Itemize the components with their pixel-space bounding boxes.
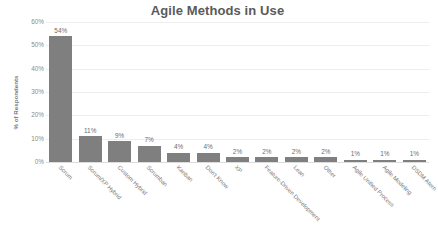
bar-slot: 4%	[193, 22, 222, 162]
bar-slot: 11%	[75, 22, 104, 162]
y-tick-label: 40%	[20, 65, 44, 71]
x-axis-label: Scrum	[57, 165, 73, 181]
x-label-slot: Scrumban	[134, 163, 163, 246]
x-axis-label: Lean	[292, 165, 305, 178]
bar[interactable]	[373, 160, 396, 162]
x-label-slot: Custom Hybrid	[105, 163, 134, 246]
y-tick-label: 0%	[20, 159, 44, 165]
bar-value-label: 2%	[311, 149, 340, 155]
bar-value-label: 54%	[46, 28, 75, 34]
bar-value-label: 2%	[252, 149, 281, 155]
bar[interactable]	[167, 153, 190, 162]
bar-slot: 7%	[134, 22, 163, 162]
bar-value-label: 2%	[223, 149, 252, 155]
x-label-slot: XP	[223, 163, 252, 246]
bar[interactable]	[79, 136, 102, 162]
bar-value-label: 11%	[75, 128, 104, 134]
bar-value-label: 4%	[164, 144, 193, 150]
bar-slot: 4%	[164, 22, 193, 162]
y-tick-label: 10%	[20, 135, 44, 141]
bar-value-label: 2%	[282, 149, 311, 155]
bar[interactable]	[197, 153, 220, 162]
x-label-slot: Scrum	[46, 163, 75, 246]
x-label-slot: Feature-Driven Development	[252, 163, 281, 246]
x-label-slot: Don't Know	[193, 163, 222, 246]
bar[interactable]	[49, 36, 72, 162]
x-label-slot: Agile Modeling	[370, 163, 399, 246]
bars-layer: 54%11%9%7%4%4%2%2%2%2%1%1%1%	[46, 22, 429, 162]
bar-value-label: 1%	[341, 151, 370, 157]
bar-slot: 2%	[252, 22, 281, 162]
bar[interactable]	[403, 160, 426, 162]
x-label-slot: DSDM Atern	[400, 163, 429, 246]
y-tick-label: 60%	[20, 19, 44, 25]
bar-value-label: 7%	[134, 137, 163, 143]
bar[interactable]	[138, 146, 161, 162]
bar[interactable]	[285, 157, 308, 162]
bar-slot: 1%	[341, 22, 370, 162]
bar-value-label: 4%	[193, 144, 222, 150]
x-label-slot: Kanban	[164, 163, 193, 246]
bar[interactable]	[344, 160, 367, 162]
x-label-slot: Scrum/XP Hybrid	[75, 163, 104, 246]
bar[interactable]	[255, 157, 278, 162]
bar-slot: 2%	[223, 22, 252, 162]
chart-title: Agile Methods in Use	[0, 3, 435, 18]
bar-slot: 9%	[105, 22, 134, 162]
x-axis-label: XP	[233, 165, 243, 175]
bar-slot: 2%	[311, 22, 340, 162]
x-axis-label: Kanban	[174, 165, 193, 184]
bar-slot: 1%	[400, 22, 429, 162]
x-label-slot: Other	[311, 163, 340, 246]
bar-value-label: 1%	[400, 151, 429, 157]
x-label-slot: Agile Unified Process	[341, 163, 370, 246]
y-tick-label: 50%	[20, 42, 44, 48]
y-axis-tick-labels: 0%10%20%30%40%50%60%	[18, 22, 44, 162]
y-tick-label: 30%	[20, 89, 44, 95]
x-axis-label: Other	[322, 165, 337, 180]
bar-value-label: 9%	[105, 133, 134, 139]
bar[interactable]	[108, 141, 131, 162]
bar[interactable]	[314, 157, 337, 162]
bar-slot: 1%	[370, 22, 399, 162]
bar-slot: 54%	[46, 22, 75, 162]
bar-slot: 2%	[282, 22, 311, 162]
x-axis-label: DSDM Atern	[410, 165, 437, 192]
x-label-slot: Lean	[282, 163, 311, 246]
x-axis-category-labels: ScrumScrum/XP HybridCustom HybridScrumba…	[46, 163, 429, 246]
bar[interactable]	[226, 157, 249, 162]
y-tick-label: 20%	[20, 112, 44, 118]
plot-area: 54%11%9%7%4%4%2%2%2%2%1%1%1%	[46, 22, 429, 162]
bar-value-label: 1%	[370, 151, 399, 157]
